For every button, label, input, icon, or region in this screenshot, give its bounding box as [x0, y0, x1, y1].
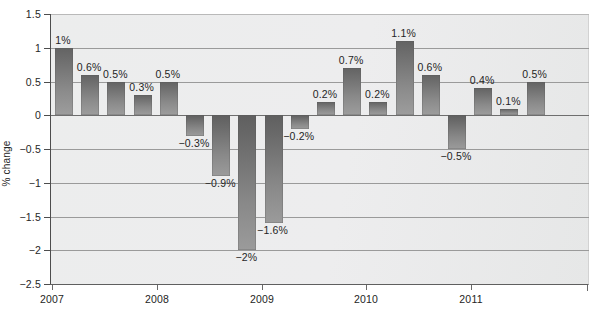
y-tick [44, 115, 50, 116]
bar-data-label: −0.9% [205, 177, 236, 189]
bar-data-label: 0.5% [155, 68, 180, 80]
bar [474, 88, 492, 115]
bar [317, 102, 335, 116]
bar [134, 95, 152, 115]
x-tick-label: 2008 [145, 293, 169, 305]
x-tick-label: 2009 [250, 293, 274, 305]
y-tick-label: 0.5 [26, 76, 41, 88]
gridline [51, 250, 589, 251]
x-axis-line [50, 284, 588, 285]
bar-data-label: −2% [235, 251, 257, 263]
y-tick [44, 82, 50, 83]
bar-data-label: −0.3% [178, 137, 209, 149]
y-tick [44, 14, 50, 15]
bar [527, 82, 545, 116]
bar-data-label: −0.2% [283, 130, 314, 142]
bar-data-label: 0.6% [417, 61, 442, 73]
bar-data-label: 0.2% [313, 88, 338, 100]
bar-data-label: 0.6% [77, 61, 102, 73]
y-axis-line [50, 14, 51, 285]
bar-data-label: 0.2% [365, 88, 390, 100]
bar-data-label: 1% [55, 34, 71, 46]
bar-data-label: 1.1% [391, 27, 416, 39]
y-tick [44, 183, 50, 184]
bar [448, 115, 466, 149]
bar [55, 48, 73, 116]
gridline [51, 217, 589, 218]
x-tick-label: 2010 [354, 293, 378, 305]
y-tick-label: 0 [35, 109, 41, 121]
y-tick-label: 1.5 [26, 8, 41, 20]
y-tick-label: −0.5 [19, 143, 41, 155]
bar-data-label: 0.3% [129, 81, 154, 93]
bar [396, 41, 414, 115]
bar [238, 115, 256, 250]
x-tick [262, 285, 263, 290]
y-axis-title: % change [1, 140, 12, 186]
gridline [51, 48, 589, 49]
bar-chart: 1.510.50−0.5−1−1.5−2−2.5 200720082009201… [0, 0, 602, 315]
y-tick-label: 1 [35, 42, 41, 54]
x-axis-end-tick [587, 285, 588, 291]
y-tick-label: −2.5 [19, 278, 41, 290]
gridline [51, 14, 589, 15]
bar-data-label: 0.1% [496, 95, 521, 107]
bar-data-label: 0.7% [339, 54, 364, 66]
bar [81, 75, 99, 116]
y-tick [44, 284, 50, 285]
bar [186, 115, 204, 135]
y-tick-label: −1.5 [19, 211, 41, 223]
y-tick [44, 250, 50, 251]
x-tick [471, 285, 472, 290]
x-tick [52, 285, 53, 290]
bar [291, 115, 309, 129]
bar [343, 68, 361, 115]
gridline [51, 149, 589, 150]
bar-data-label: −1.6% [257, 224, 288, 236]
x-tick [157, 285, 158, 290]
bar-data-label: 0.4% [470, 74, 495, 86]
y-tick [44, 217, 50, 218]
x-tick [366, 285, 367, 290]
y-tick [44, 48, 50, 49]
bar-data-label: −0.5% [440, 150, 471, 162]
x-tick-label: 2007 [40, 293, 64, 305]
gridline [51, 183, 589, 184]
bar [265, 115, 283, 223]
bar-data-label: 0.5% [522, 68, 547, 80]
bar [107, 82, 125, 116]
bar [369, 102, 387, 116]
bar-data-label: 0.5% [103, 68, 128, 80]
bar [500, 109, 518, 116]
plot-area [50, 14, 589, 284]
bar [212, 115, 230, 176]
bar [422, 75, 440, 116]
x-tick-label: 2011 [459, 293, 482, 305]
y-tick-label: −2 [29, 244, 41, 256]
bar [160, 82, 178, 116]
y-tick [44, 149, 50, 150]
y-tick-label: −1 [29, 177, 41, 189]
